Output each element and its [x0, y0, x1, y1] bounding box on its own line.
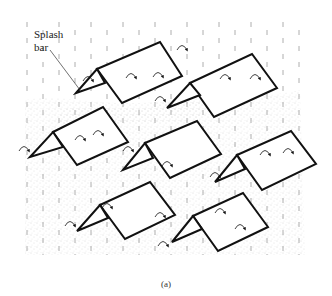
label-leader-line [50, 50, 80, 90]
roof-face [97, 42, 182, 103]
label-line-1: Splash [34, 28, 63, 41]
splash-arrow-icon [177, 46, 187, 51]
figure-caption: (a) [0, 279, 332, 289]
splash-bar-label: Splash bar [34, 28, 63, 54]
splash-arrow-icon [155, 97, 165, 102]
label-line-2: bar [34, 41, 63, 54]
splash-bar-1 [76, 42, 182, 103]
